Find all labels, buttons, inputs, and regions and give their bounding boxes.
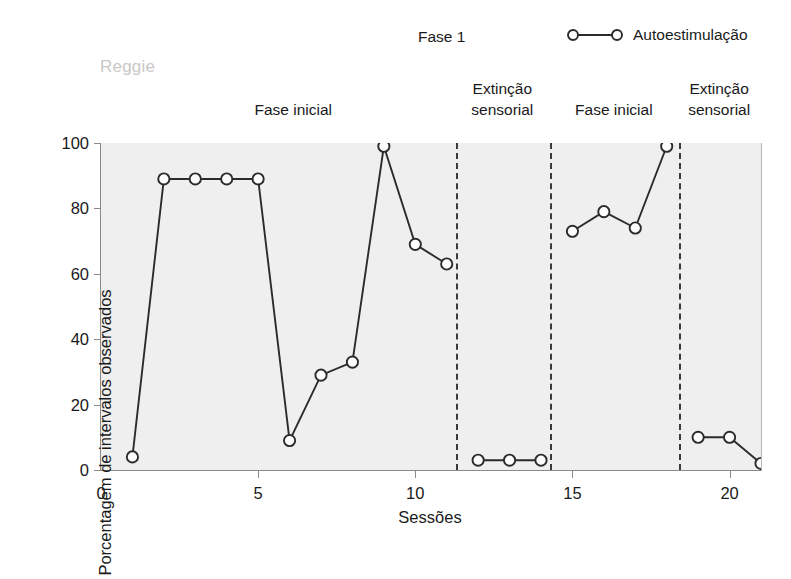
phase-1-label: Fase 1 [418, 28, 465, 46]
x-tick-label-10: 10 [406, 484, 424, 503]
y-tick-label-100: 100 [61, 134, 89, 153]
x-axis-title: Sessões [100, 508, 760, 527]
x-tick-label-5: 5 [254, 484, 263, 503]
chart-legend: Autoestimulação [566, 26, 748, 44]
y-tick-100 [94, 143, 101, 144]
data-point-session-6 [284, 435, 295, 446]
y-tick-label-0: 0 [80, 461, 89, 480]
x-tick-10 [415, 470, 416, 478]
y-tick-label-80: 80 [71, 199, 89, 218]
data-point-session-4 [221, 173, 232, 184]
data-point-session-10 [410, 239, 421, 250]
phase-band-line-1: Extinção [422, 78, 582, 99]
y-axis-title: Porcentagem de intervalos observados [96, 233, 115, 579]
x-tick-15 [572, 470, 573, 478]
phase-band-extincao-sensorial-2: Extinção sensorial [639, 78, 791, 120]
phase-band-line-1: Fase inicial [213, 99, 373, 120]
y-tick-80 [94, 208, 101, 209]
data-point-session-17 [630, 222, 641, 233]
x-tick-5 [258, 470, 259, 478]
phase-divider-3 [679, 143, 681, 470]
data-point-session-1 [127, 451, 138, 462]
data-point-session-20 [724, 432, 735, 443]
data-point-session-13 [504, 455, 515, 466]
phase-divider-2 [550, 143, 552, 470]
data-point-session-12 [473, 455, 484, 466]
data-point-session-9 [378, 143, 389, 152]
phase-divider-1 [456, 143, 458, 470]
data-point-session-15 [567, 226, 578, 237]
subject-label: Reggie [100, 57, 155, 77]
data-point-session-16 [598, 206, 609, 217]
y-tick-label-20: 20 [71, 395, 89, 414]
legend-label-autoestimulacao: Autoestimulação [633, 26, 748, 44]
data-point-session-19 [693, 432, 704, 443]
legend-marker-icon [566, 28, 624, 42]
y-tick-label-40: 40 [71, 330, 89, 349]
series-autoestimulacao [101, 143, 761, 470]
data-point-session-21 [755, 458, 761, 469]
series-segment-3 [572, 146, 666, 231]
x-tick-20 [730, 470, 731, 478]
phase-band-fase-inicial-1: Fase inicial [213, 99, 373, 120]
data-point-session-18 [661, 143, 672, 152]
phase-band-line-2: sensorial [639, 99, 791, 120]
data-point-session-3 [190, 173, 201, 184]
plot-area: 020406080100 05101520 Porcentagem de int… [100, 143, 762, 471]
data-point-session-5 [253, 173, 264, 184]
data-point-session-14 [535, 455, 546, 466]
data-point-session-7 [315, 370, 326, 381]
series-segment-1 [132, 146, 446, 457]
x-tick-label-20: 20 [720, 484, 738, 503]
data-point-session-8 [347, 356, 358, 367]
data-point-session-11 [441, 258, 452, 269]
y-tick-label-60: 60 [71, 264, 89, 283]
data-point-session-2 [158, 173, 169, 184]
x-tick-label-15: 15 [563, 484, 581, 503]
phase-band-line-1: Extinção [639, 78, 791, 99]
